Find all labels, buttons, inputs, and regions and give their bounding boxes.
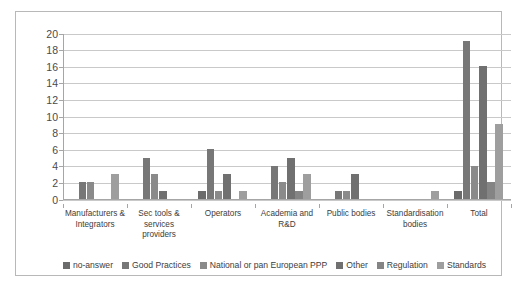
bar	[495, 124, 503, 199]
x-category-label: Standardisationbodies	[383, 209, 447, 230]
legend-swatch-icon	[336, 262, 343, 269]
x-tick-mark	[511, 204, 512, 208]
bar	[207, 149, 215, 199]
legend-label: National or pan European PPP	[210, 260, 328, 270]
legend-label: Other	[346, 260, 368, 270]
legend-item[interactable]: National or pan European PPP	[200, 260, 328, 270]
legend-label: Regulation	[387, 260, 428, 270]
x-category-label-line: Operators	[191, 209, 255, 220]
bar	[463, 41, 471, 199]
y-tick-mark	[59, 166, 63, 167]
bar	[335, 191, 343, 199]
y-axis-tick-labels: 02468101214161820	[16, 34, 58, 200]
legend-label: Standards	[447, 260, 486, 270]
x-tick-mark	[383, 204, 384, 208]
bar	[151, 174, 159, 199]
bar	[223, 174, 231, 199]
x-category-label-line: R&D	[255, 220, 319, 231]
y-tick-label: 10	[46, 112, 58, 122]
y-tick-label: 6	[52, 145, 58, 155]
bar-group	[383, 33, 447, 199]
bar	[111, 174, 119, 199]
bar	[295, 191, 303, 199]
y-tick-mark	[59, 34, 63, 35]
y-tick-label: 16	[46, 62, 58, 72]
y-tick-label: 14	[46, 78, 58, 88]
x-tick-mark	[319, 204, 320, 208]
legend-swatch-icon	[437, 262, 444, 269]
x-category-label-line: Academia and	[255, 209, 319, 220]
bar	[303, 174, 311, 199]
x-category-label: Academia andR&D	[255, 209, 319, 230]
y-tick-mark	[59, 183, 63, 184]
y-tick-label: 8	[52, 128, 58, 138]
legend-item[interactable]: Other	[336, 260, 368, 270]
bar	[87, 182, 95, 199]
y-tick-label: 12	[46, 95, 58, 105]
y-tick-label: 4	[52, 161, 58, 171]
bar	[343, 191, 351, 199]
bar-chart: 02468101214161820 Manufacturers &Integra…	[0, 0, 518, 286]
x-axis-line	[63, 199, 511, 200]
x-category-label: Sec tools &servicesproviders	[127, 209, 191, 241]
x-tick-mark	[255, 204, 256, 208]
y-tick-label: 2	[52, 178, 58, 188]
y-tick-label: 0	[52, 195, 58, 205]
legend-swatch-icon	[377, 262, 384, 269]
y-tick-mark	[59, 150, 63, 151]
y-tick-mark	[59, 200, 63, 201]
x-tick-mark	[127, 204, 128, 208]
y-tick-label: 20	[46, 29, 58, 39]
legend-item[interactable]: Good Practices	[122, 260, 191, 270]
bar	[454, 191, 462, 199]
x-tick-mark	[447, 204, 448, 208]
bar-group	[63, 33, 127, 199]
x-tick-mark	[191, 204, 192, 208]
x-category-label: Operators	[191, 209, 255, 220]
x-category-label-line: Public bodies	[319, 209, 383, 220]
x-category-label-line: providers	[127, 230, 191, 241]
legend-item[interactable]: no-answer	[63, 260, 113, 270]
y-tick-mark	[59, 117, 63, 118]
bar	[215, 191, 223, 199]
bar	[487, 182, 495, 199]
x-category-label-line: services	[127, 220, 191, 231]
y-tick-mark	[59, 133, 63, 134]
plot-inner	[63, 34, 511, 200]
bar-group	[319, 33, 383, 199]
legend-swatch-icon	[63, 262, 70, 269]
bar	[239, 191, 247, 199]
legend-item[interactable]: Regulation	[377, 260, 428, 270]
bar-group	[191, 33, 255, 199]
bar	[471, 166, 479, 199]
y-tick-mark	[59, 50, 63, 51]
chart-legend: no-answerGood PracticesNational or pan E…	[31, 260, 518, 270]
x-category-label-line: Integrators	[63, 220, 127, 231]
bar	[287, 158, 295, 200]
x-category-label-line: Manufacturers &	[63, 209, 127, 220]
legend-swatch-icon	[122, 262, 129, 269]
bar	[279, 182, 287, 199]
x-category-label-line: Standardisation	[383, 209, 447, 220]
legend-label: Good Practices	[132, 260, 191, 270]
bar-group	[255, 33, 319, 199]
y-tick-mark	[59, 83, 63, 84]
x-category-label: Public bodies	[319, 209, 383, 220]
x-category-label-line: bodies	[383, 220, 447, 231]
bar	[351, 174, 359, 199]
x-category-label-line: Total	[447, 209, 511, 220]
y-tick-mark	[59, 67, 63, 68]
x-category-label: Manufacturers &Integrators	[63, 209, 127, 230]
bar	[159, 191, 167, 199]
y-tick-label: 18	[46, 45, 58, 55]
chart-frame: 02468101214161820 Manufacturers &Integra…	[15, 11, 502, 276]
bar	[431, 191, 439, 199]
bar	[198, 191, 206, 199]
bar	[271, 166, 279, 199]
legend-item[interactable]: Standards	[437, 260, 486, 270]
bar	[79, 182, 87, 199]
x-axis-category-labels: Manufacturers &IntegratorsSec tools &ser…	[63, 204, 511, 252]
x-category-label-line: Sec tools &	[127, 209, 191, 220]
plot-area	[63, 34, 511, 200]
bar	[143, 158, 151, 200]
